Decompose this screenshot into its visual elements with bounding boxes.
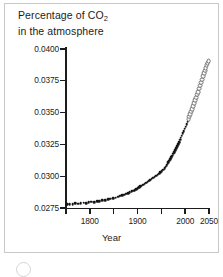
plot-area [66, 49, 209, 208]
data-point [206, 59, 211, 64]
y-axis-tick-label: 0.0350 [34, 107, 59, 117]
x-axis-tick-label: 1800 [81, 216, 99, 226]
x-axis-tick [113, 208, 114, 214]
y-axis-tick [60, 80, 66, 81]
y-axis-tick [60, 112, 66, 113]
y-axis-tick [60, 48, 66, 49]
y-axis-labels: 0.02750.03000.03250.03500.03750.0400 [0, 0, 59, 269]
x-axis-tick [65, 208, 66, 214]
y-axis-tick [60, 176, 66, 177]
x-axis-tick [89, 208, 90, 214]
data-point [182, 130, 185, 133]
x-axis-tick-label: 2050 [200, 216, 218, 226]
x-axis-tick [137, 208, 138, 214]
x-axis-title: Year [0, 232, 223, 243]
x-axis-tick [208, 208, 209, 214]
data-point [185, 123, 188, 126]
chart-title-subscript: 2 [104, 14, 108, 23]
x-axis-tick-label: 1900 [128, 216, 146, 226]
x-axis-tick [184, 208, 185, 214]
data-point [181, 132, 184, 135]
y-axis-tick [60, 144, 66, 145]
y-axis-tick-label: 0.0325 [34, 139, 59, 149]
y-axis-tick-label: 0.0375 [34, 75, 59, 85]
y-axis-tick-label: 0.0400 [34, 44, 59, 54]
x-axis-tick [161, 208, 162, 214]
clipped-figure-marker [16, 262, 31, 277]
data-point [183, 128, 186, 131]
y-axis-tick-label: 0.0300 [34, 171, 59, 181]
x-axis-tick-label: 2000 [176, 216, 194, 226]
data-point [178, 141, 181, 144]
data-point [181, 134, 184, 137]
y-axis-tick-label: 0.0275 [34, 203, 59, 213]
data-point [184, 125, 187, 128]
